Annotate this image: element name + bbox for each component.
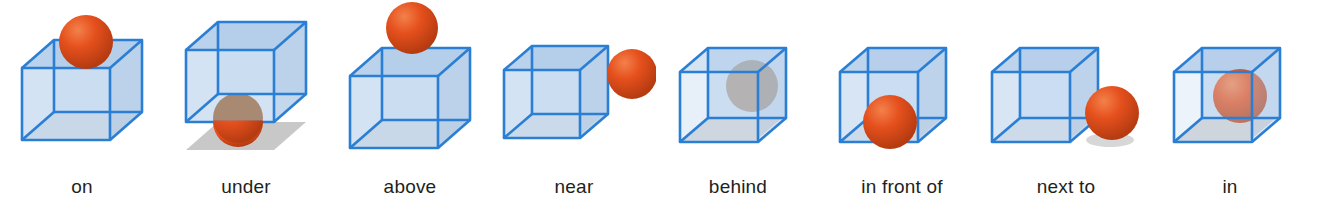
panel-under: under <box>164 0 328 222</box>
panel-next-to: next to <box>984 0 1148 222</box>
scene-on <box>0 0 164 172</box>
panel-above: above <box>328 0 492 222</box>
sphere <box>863 95 917 149</box>
caption-near: near <box>492 176 656 198</box>
caption-next-to: next to <box>984 176 1148 198</box>
panel-on: on <box>0 0 164 222</box>
sphere <box>59 15 113 69</box>
caption-in: in <box>1148 176 1312 198</box>
panel-near: near <box>492 0 656 222</box>
caption-under: under <box>164 176 328 198</box>
caption-behind: behind <box>656 176 820 198</box>
sphere <box>607 49 656 99</box>
scene-above <box>328 0 492 172</box>
panel-behind: behind <box>656 0 820 222</box>
panel-in: in <box>1148 0 1312 222</box>
caption-above: above <box>328 176 492 198</box>
scene-near <box>492 0 656 172</box>
caption-in-front-of: in front of <box>820 176 984 198</box>
sphere <box>386 2 438 54</box>
scene-under <box>164 0 328 172</box>
scene-in <box>1148 0 1312 172</box>
scene-in-front-of <box>820 0 984 172</box>
prepositions-figure: on <box>0 0 1318 222</box>
scene-behind <box>656 0 820 172</box>
scene-next-to <box>984 0 1148 172</box>
sphere <box>1085 86 1139 140</box>
caption-on: on <box>0 176 164 198</box>
panel-in-front-of: in front of <box>820 0 984 222</box>
